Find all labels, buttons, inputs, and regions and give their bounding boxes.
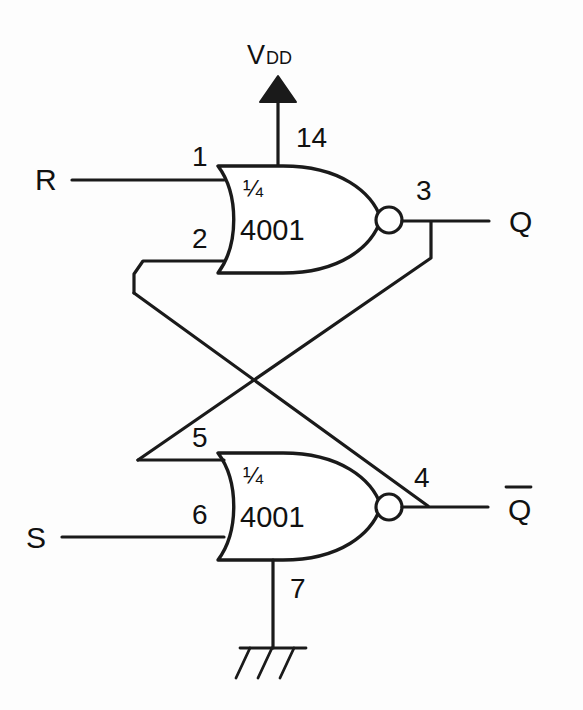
pin2-input-wire <box>134 261 224 293</box>
pin-label-3: 3 <box>416 175 432 206</box>
vdd-triangle-icon <box>260 76 296 102</box>
q-output-label: Q <box>509 205 532 238</box>
pin-label-14: 14 <box>296 122 327 153</box>
nor-gate-top-part-number: 4001 <box>240 214 305 246</box>
nor-gate-bottom-bubble-icon <box>376 494 402 520</box>
pin-label-4: 4 <box>414 462 430 493</box>
nor-gate-bottom-part-number: 4001 <box>240 501 305 533</box>
ground-hatch-2 <box>258 648 272 678</box>
set-input-label: S <box>26 521 46 554</box>
pin-label-6: 6 <box>192 499 208 530</box>
nor-gate-bottom-fraction: ¼ <box>243 462 264 489</box>
circuit-diagram: ¼ 4001 14 R 1 2 3 Q ¼ 4001 5 S 6 <box>0 0 583 710</box>
vdd-label-group: V DD <box>247 40 292 70</box>
ground-hatch-3 <box>280 648 294 678</box>
ground-hatch-1 <box>236 648 250 678</box>
pin-label-7: 7 <box>290 573 306 604</box>
pin-label-1: 1 <box>192 141 208 172</box>
nor-gate-top-bubble-icon <box>376 207 402 233</box>
reset-input-label: R <box>35 163 57 196</box>
vdd-label: V <box>247 40 265 70</box>
qnot-output-label: Q <box>508 493 531 526</box>
vdd-subscript: DD <box>266 48 292 68</box>
pin-label-5: 5 <box>192 422 208 453</box>
qnot-output-label-group: Q <box>506 487 531 526</box>
pin-label-2: 2 <box>192 223 208 254</box>
schematic-canvas: ¼ 4001 14 R 1 2 3 Q ¼ 4001 5 S 6 <box>0 0 583 710</box>
nor-gate-top-fraction: ¼ <box>243 175 264 202</box>
vdd-supply-group <box>260 76 296 166</box>
